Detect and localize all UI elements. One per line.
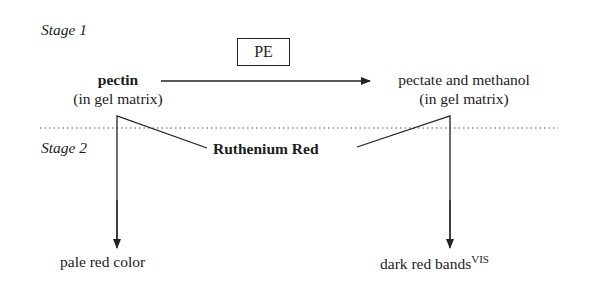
right-result-text: dark red bands [380,255,471,272]
product-context: (in gel matrix) [404,91,524,107]
stain-label: Ruthenium Red [213,141,319,157]
right-result: dark red bandsVIS [380,254,489,272]
reactant-context: (in gel matrix) [58,91,178,107]
reactant-name: pectin [68,72,168,88]
right-result-superscript: VIS [471,253,489,265]
product-name: pectate and methanol [374,72,554,88]
left-stain-connector [117,116,207,247]
enzyme-box: PE [237,38,290,66]
right-stain-connector [357,116,450,247]
left-result: pale red color [60,254,145,270]
stage1-label: Stage 1 [41,22,87,38]
stage2-label: Stage 2 [41,140,87,156]
enzyme-label: PE [254,43,273,61]
